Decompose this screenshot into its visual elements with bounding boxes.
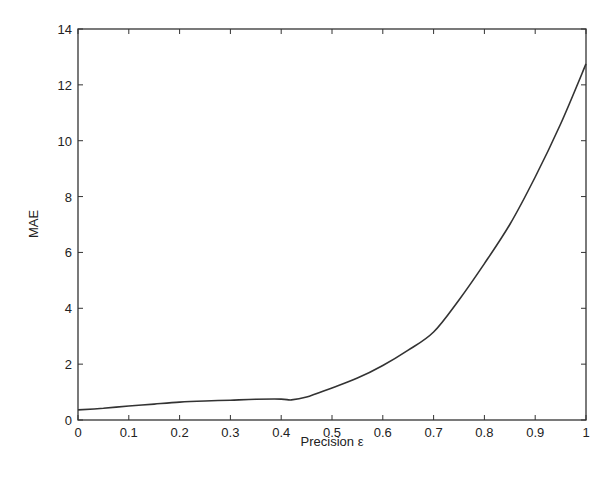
x-tick-label: 0.2	[171, 425, 189, 440]
y-tick-label: 6	[65, 245, 72, 260]
y-tick-label: 2	[65, 357, 72, 372]
mae-vs-precision-chart: 00.10.20.30.40.50.60.70.80.91 0246810121…	[0, 0, 613, 487]
y-axis-label: MAE	[26, 210, 41, 239]
y-tick-label: 12	[58, 78, 72, 93]
x-tick-label: 0.3	[221, 425, 239, 440]
x-tick-label: 0	[74, 425, 81, 440]
x-tick-label: 0.9	[526, 425, 544, 440]
y-tick-label: 0	[65, 413, 72, 428]
x-tick-label: 1	[582, 425, 589, 440]
x-tick-label: 0.6	[374, 425, 392, 440]
y-tick-label: 14	[58, 22, 72, 37]
y-tick-label: 10	[58, 134, 72, 149]
y-tick-label: 8	[65, 190, 72, 205]
x-tick-label: 0.8	[475, 425, 493, 440]
chart-background	[0, 0, 613, 487]
x-tick-label: 0.7	[425, 425, 443, 440]
x-tick-label: 0.4	[272, 425, 290, 440]
x-axis-label: Precision ε	[301, 434, 364, 449]
x-tick-label: 0.1	[120, 425, 138, 440]
y-tick-label: 4	[65, 301, 72, 316]
